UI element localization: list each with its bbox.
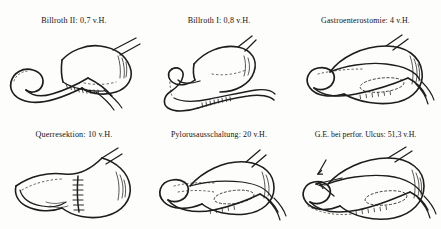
figure-cell-billroth-2: Billroth II: 0,7 v.H. <box>0 0 148 114</box>
figure-caption-billroth-2: Billroth II: 0,7 v.H. <box>41 17 107 25</box>
figure-illustration-gastroenterostomie <box>290 26 441 114</box>
figure-caption-querresektion: Querresektion: 10 v.H. <box>36 131 113 139</box>
figure-caption-ge-bei-perfor-ulcus: G.E. bei perfor. Ulcus: 51,3 v.H. <box>315 131 417 139</box>
figure-grid: Billroth II: 0,7 v.H. <box>0 0 441 229</box>
figure-illustration-billroth-1 <box>148 26 290 114</box>
figure-cell-ge-bei-perfor-ulcus: G.E. bei perfor. Ulcus: 51,3 v.H. <box>290 114 441 229</box>
flow-arrow-group <box>316 160 342 196</box>
figure-illustration-querresektion <box>0 140 148 229</box>
figure-cell-querresektion: Querresektion: 10 v.H. <box>0 114 148 229</box>
figure-caption-gastroenterostomie: Gastroenterostomie: 4 v.H. <box>321 17 410 25</box>
figure-illustration-billroth-2 <box>0 26 148 114</box>
figure-cell-gastroenterostomie: Gastroenterostomie: 4 v.H. <box>290 0 441 114</box>
figure-plate: Billroth II: 0,7 v.H. <box>0 0 441 229</box>
figure-illustration-pylorusausschaltung <box>148 140 290 229</box>
figure-cell-billroth-1: Billroth I: 0,8 v.H. <box>148 0 290 114</box>
figure-caption-billroth-1: Billroth I: 0,8 v.H. <box>188 17 251 25</box>
figure-cell-pylorusausschaltung: Pylorusausschaltung: 20 v.H. <box>148 114 290 229</box>
figure-caption-pylorusausschaltung: Pylorusausschaltung: 20 v.H. <box>171 131 267 139</box>
figure-illustration-ge-bei-perfor-ulcus <box>290 140 441 229</box>
